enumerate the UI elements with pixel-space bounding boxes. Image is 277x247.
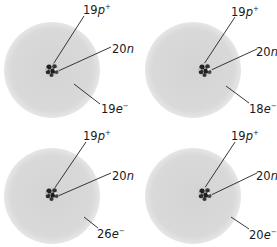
nucleus bbox=[198, 187, 212, 201]
atom-top-left: 19p+ 20n 19e− bbox=[4, 3, 134, 118]
atom-bottom-right: 19p+ 20n 20e− bbox=[145, 129, 277, 244]
neutrons-label: 20n bbox=[256, 169, 277, 183]
neutrons-label: 20n bbox=[112, 42, 134, 56]
neutrons-label: 20n bbox=[112, 169, 134, 183]
neutrons-label: 20n bbox=[256, 45, 277, 59]
nucleus bbox=[45, 187, 59, 201]
atom-bottom-left: 19p+ 20n 26e− bbox=[4, 129, 134, 244]
electrons-label: 19e− bbox=[101, 102, 129, 116]
nucleus bbox=[198, 63, 212, 77]
electrons-label: 26e− bbox=[97, 227, 125, 241]
protons-label: 19p+ bbox=[231, 129, 259, 143]
electron-cloud bbox=[145, 148, 241, 244]
nucleus bbox=[45, 63, 59, 77]
electron-cloud bbox=[145, 22, 241, 118]
protons-label: 19p+ bbox=[83, 129, 111, 143]
electrons-label: 20e− bbox=[249, 228, 277, 242]
electrons-label: 18e− bbox=[249, 102, 277, 116]
atom-diagrams: 19p+ 20n 19e− 19p+ 20n 18e− 19p+ 20n 26e… bbox=[0, 0, 277, 247]
atom-top-right: 19p+ 20n 18e− bbox=[145, 5, 277, 118]
protons-label: 19p+ bbox=[231, 5, 259, 19]
leader-electrons bbox=[231, 217, 249, 229]
protons-label: 19p+ bbox=[83, 3, 111, 17]
